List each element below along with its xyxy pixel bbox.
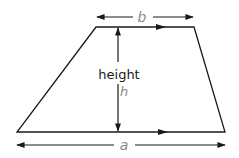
trapezium-diagram: b height h a <box>0 0 239 158</box>
parallel-marker-top <box>156 24 166 30</box>
b-label: b <box>138 9 147 25</box>
height-word-label: height <box>98 67 139 82</box>
a-label: a <box>120 137 129 153</box>
height-symbol-label: h <box>120 84 128 99</box>
parallel-marker-bottom <box>158 129 168 135</box>
